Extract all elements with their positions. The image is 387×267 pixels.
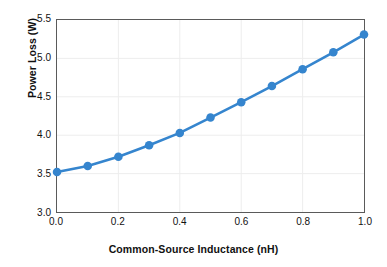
y-tick-label: 4.5 [11, 91, 51, 102]
plot-area [56, 19, 365, 213]
y-tick-label: 5.5 [11, 13, 51, 24]
data-point-marker [145, 141, 154, 150]
data-point-marker [206, 113, 215, 122]
x-tick-label: 0.8 [283, 216, 323, 227]
y-tick-label: 4.0 [11, 129, 51, 140]
y-tick-label: 3.5 [11, 168, 51, 179]
data-point-marker [298, 65, 307, 74]
power-loss-line-chart: Power Loss (W) 3.03.54.04.55.05.5 0.00.2… [0, 0, 387, 267]
plot-svg [57, 20, 364, 212]
data-point-marker [360, 30, 369, 39]
series-markers [53, 30, 369, 176]
x-tick-label: 0.2 [98, 216, 138, 227]
data-point-marker [329, 48, 338, 57]
x-tick-label: 1.0 [345, 216, 385, 227]
series-line [57, 35, 364, 172]
data-point-marker [53, 168, 62, 177]
x-tick-label: 0.6 [221, 216, 261, 227]
data-point-marker [83, 162, 92, 171]
data-point-marker [268, 82, 277, 91]
x-tick-label: 0.0 [36, 216, 76, 227]
data-point-marker [176, 129, 185, 138]
data-point-marker [114, 152, 123, 161]
data-point-marker [237, 98, 246, 107]
y-tick-label: 5.0 [11, 52, 51, 63]
data-series-power-loss [53, 30, 369, 176]
x-axis-title: Common-Source Inductance (nH) [0, 243, 387, 255]
x-tick-label: 0.4 [160, 216, 200, 227]
